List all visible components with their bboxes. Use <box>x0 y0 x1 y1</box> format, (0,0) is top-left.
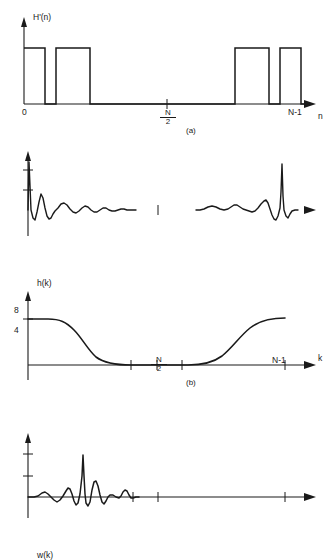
panel-a-xtick-n-over-2-num: N <box>160 109 176 117</box>
panel-c-waveform <box>28 318 285 365</box>
panel-a-y-axis-label: H'(n) <box>33 12 51 22</box>
panel-a-waveform <box>24 48 308 104</box>
panel-d: h'(k) k 8 4 2T₀ T N 2 N-1 (d) <box>0 418 335 560</box>
panel-a-xtick-n-over-2: N 2 <box>160 109 176 126</box>
panel-b-waveform <box>28 162 298 220</box>
panel-a-xtick-n-minus-1: N-1 <box>288 107 302 117</box>
panel-c-plot <box>0 272 335 412</box>
panel-d-x-axis <box>28 493 316 501</box>
panel-a-caption: (a) <box>186 126 196 135</box>
panel-d-waveform <box>28 455 139 506</box>
panel-a-x-axis-label: n <box>318 111 323 121</box>
panel-c-y-axis <box>25 291 31 380</box>
panel-a: H'(n) n 0 N 2 N-1 (a) <box>0 0 335 140</box>
panel-b: h(k) k 8 4 N 2 N-1 (b) <box>0 140 335 265</box>
panel-c: w(k) k 1 T₀ T N 2 N-1 (c) <box>0 272 335 412</box>
panel-a-xtick-0: 0 <box>22 107 27 117</box>
panel-a-y-axis <box>21 17 27 104</box>
figure-root: H'(n) n 0 N 2 N-1 (a) <box>0 0 335 560</box>
panel-b-plot <box>0 140 335 265</box>
panel-a-xtick-n-over-2-den: 2 <box>160 117 176 126</box>
panel-d-plot <box>0 418 335 560</box>
